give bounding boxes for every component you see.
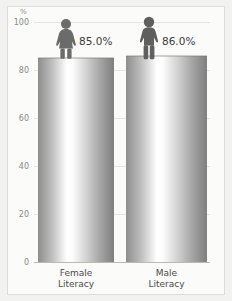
data-label-female-literacy: 85.0% xyxy=(79,35,112,47)
x-category-label-male-literacy: Male Literacy xyxy=(126,268,207,290)
data-label-male-literacy: 86.0% xyxy=(162,35,195,47)
chart-figure: % 100 80 60 40 20 0 85.0% 86.0% xyxy=(0,0,232,301)
axis-baseline xyxy=(34,262,210,263)
male-figure-icon xyxy=(137,16,161,60)
y-tick-label-0: 0 xyxy=(0,258,29,267)
y-tick-label-100: 100 xyxy=(0,18,29,27)
y-tick-label-60: 60 xyxy=(0,114,29,123)
category-label-line-1: Male xyxy=(126,268,207,279)
y-tick-label-40: 40 xyxy=(0,162,29,171)
x-category-label-female-literacy: Female Literacy xyxy=(38,268,114,290)
bar-male-literacy[interactable] xyxy=(126,56,207,262)
y-tick-label-80: 80 xyxy=(0,66,29,75)
category-label-line-1: Female xyxy=(38,268,114,279)
y-tick-label-20: 20 xyxy=(0,210,29,219)
bar-female-literacy[interactable] xyxy=(38,58,114,262)
category-label-line-2: Literacy xyxy=(38,279,114,290)
y-axis-unit-label: % xyxy=(20,8,27,16)
category-label-line-2: Literacy xyxy=(126,279,207,290)
female-figure-icon xyxy=(54,18,78,60)
